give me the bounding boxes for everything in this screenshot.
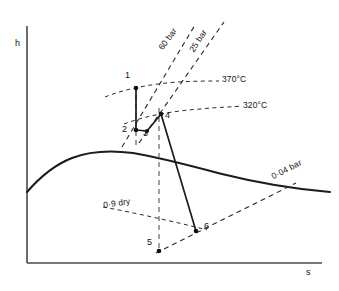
- isotherm-370c-line: [105, 81, 219, 97]
- state-point-6-marker: [194, 229, 199, 234]
- state-point-4-label: 4: [165, 111, 170, 120]
- isobar-0-04-bar-line: [156, 183, 296, 253]
- mollier-chart-figure: h s 1 2 3 4 5 6 60 bar 25 bar 0·04 bar 3…: [0, 0, 339, 291]
- state-point-2-marker: [134, 128, 139, 133]
- x-axis-label: s: [306, 268, 311, 277]
- state-point-5-marker: [157, 249, 162, 254]
- state-point-1-marker: [134, 86, 139, 91]
- state-point-4-marker: [159, 112, 164, 117]
- state-point-2-label: 2: [122, 125, 127, 134]
- y-axis-label: h: [15, 39, 20, 48]
- state-point-6-label: 6: [204, 222, 209, 231]
- state-point-5-label: 5: [147, 238, 152, 247]
- state-point-3-label: 3: [143, 129, 148, 138]
- process-path-4-6: [161, 114, 196, 231]
- isotherm-320c-label: 320°C: [243, 101, 267, 110]
- isotherm-370c-label: 370°C: [222, 75, 246, 84]
- state-point-1-label: 1: [125, 71, 130, 80]
